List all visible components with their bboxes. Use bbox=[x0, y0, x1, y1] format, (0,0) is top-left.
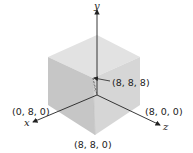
y-axis-label: y bbox=[93, 0, 100, 11]
z-axis-label: z bbox=[162, 121, 169, 132]
label-bottom: (8, 8, 0) bbox=[74, 139, 112, 150]
label-top-corner: (8, 8, 8) bbox=[112, 77, 150, 88]
cube-diagram: y x z (8, 8, 8) (0, 8, 0) (8, 0, 0) (8, … bbox=[0, 0, 193, 153]
label-left: (0, 8, 0) bbox=[12, 106, 50, 117]
x-axis-label: x bbox=[24, 117, 30, 128]
label-right: (8, 0, 0) bbox=[145, 106, 183, 117]
